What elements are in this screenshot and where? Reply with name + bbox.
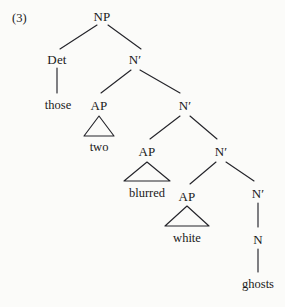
leaf-white: white (173, 232, 201, 245)
leaf-ghosts: ghosts (242, 278, 274, 291)
branch-nbar3-ap3 (190, 162, 216, 184)
node-ap-2: AP (138, 145, 155, 158)
triangle-ap-two (84, 116, 114, 136)
leaf-blurred: blurred (129, 187, 165, 200)
node-ap-3: AP (178, 190, 195, 203)
branch-nbar3-nbar4 (226, 162, 254, 181)
branch-nbar1-nbar2 (140, 70, 180, 93)
leaf-two: two (90, 141, 109, 154)
node-ap-1: AP (90, 99, 107, 112)
branch-nbar2-nbar3 (190, 116, 217, 139)
branch-group (57, 25, 258, 272)
triangle-ap-white (165, 206, 209, 226)
branch-np-det (60, 25, 97, 49)
node-nbar-1: N′ (129, 53, 142, 66)
node-nbar-2: N′ (179, 99, 192, 112)
branch-np-nbar1 (108, 25, 141, 49)
node-det: Det (47, 53, 66, 66)
leaf-those: those (45, 99, 71, 112)
syntax-tree-figure: (3) NP Det N′ those AP N′ two AP N′ blur… (0, 0, 285, 307)
branch-nbar2-ap2 (150, 116, 180, 139)
triangle-ap-blurred (124, 162, 170, 181)
branch-nbar1-ap1 (101, 70, 131, 93)
node-np: NP (93, 10, 110, 23)
node-nbar-3: N′ (215, 145, 228, 158)
example-number: (3) (12, 12, 27, 25)
triangle-group (84, 116, 209, 226)
node-n: N (253, 233, 263, 246)
node-nbar-4: N′ (252, 187, 265, 200)
